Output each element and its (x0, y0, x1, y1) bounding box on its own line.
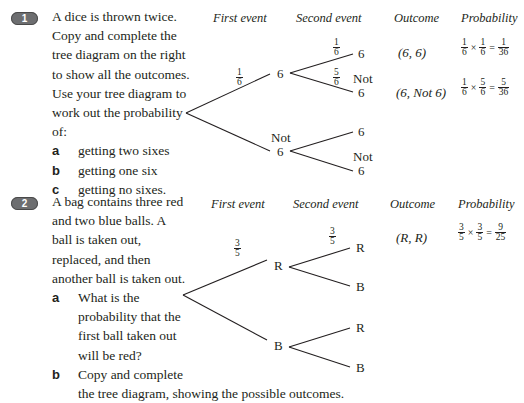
numerator: 5 (500, 78, 507, 87)
question-1: 1 A dice is thrown twice. Copy and compl… (0, 0, 524, 185)
node-first-not-label: Not (271, 131, 291, 145)
numerator: 1 (500, 38, 507, 47)
fraction: 56 (479, 78, 486, 97)
question-2: 2 A bag contains three red and two blue … (0, 185, 524, 384)
times-sign: × (471, 42, 477, 53)
branch-prob-first-6: 1 6 (236, 68, 243, 87)
denominator: 6 (479, 87, 486, 97)
fraction: 35 (458, 223, 465, 242)
leaf-r-r: R (356, 241, 365, 255)
leaf-6-6: 6 (358, 47, 365, 61)
node-first-6: 6 (277, 67, 284, 81)
node-first-not6: 6 (277, 145, 284, 159)
fraction: 925 (495, 223, 507, 242)
node-first-b: B (274, 339, 283, 353)
outcome-6-not6: (6, Not 6) (396, 85, 446, 101)
denominator: 6 (333, 77, 340, 87)
branch-prob-second-6: 1 6 (333, 38, 340, 57)
outcome-r-r: (R, R) (396, 230, 427, 246)
branch-prob-second-not6: 5 6 (333, 68, 340, 87)
times-sign: × (468, 227, 474, 238)
denominator: 5 (476, 232, 483, 242)
probability-6-6: 16 × 16 = 136 (461, 38, 509, 57)
equals-sign: = (489, 42, 495, 53)
numerator: 3 (234, 239, 241, 248)
fraction: 16 (461, 38, 468, 57)
denominator: 6 (461, 87, 468, 97)
numerator: 1 (236, 68, 243, 77)
denominator: 5 (234, 248, 241, 258)
times-sign: × (471, 82, 477, 93)
fraction: 35 (476, 223, 483, 242)
outcome-6-6: (6, 6) (398, 45, 426, 61)
leaf-b-r: R (356, 321, 365, 335)
branch-prob-second-r: 3 5 (329, 227, 336, 246)
numerator: 5 (333, 68, 340, 77)
fraction: 16 (479, 38, 486, 57)
denominator: 25 (495, 232, 507, 242)
leaf-6-not6: 6 (358, 86, 365, 100)
denominator: 36 (498, 87, 510, 97)
numerator: 5 (479, 78, 486, 87)
equals-sign: = (486, 227, 492, 238)
numerator: 1 (479, 38, 486, 47)
numerator: 3 (458, 223, 465, 232)
leaf-not6-6: 6 (358, 125, 365, 139)
node-first-r: R (274, 259, 283, 273)
numerator: 1 (461, 78, 468, 87)
probability-6-not6: 16 × 56 = 536 (461, 78, 509, 97)
fraction: 536 (498, 78, 510, 97)
equals-sign: = (489, 82, 495, 93)
denominator: 5 (329, 236, 336, 246)
leaf-b-b: B (356, 361, 365, 375)
fraction: 16 (461, 78, 468, 97)
denominator: 6 (479, 47, 486, 57)
branch-prob-first-r: 3 5 (234, 239, 241, 258)
part-text: the tree diagram, showing the possible o… (78, 384, 344, 403)
leaf-6-not-label: Not (353, 72, 373, 86)
leaf-r-b: B (356, 280, 365, 294)
numerator: 3 (476, 223, 483, 232)
fraction: 136 (498, 38, 510, 57)
denominator: 6 (236, 77, 243, 87)
tree-diagram-2 (0, 185, 524, 384)
numerator: 1 (461, 38, 468, 47)
numerator: 9 (497, 223, 504, 232)
denominator: 5 (458, 232, 465, 242)
leaf-not6-not6: 6 (358, 164, 365, 178)
numerator: 3 (329, 227, 336, 236)
leaf-not6-not-label: Not (353, 150, 373, 164)
numerator: 1 (333, 38, 340, 47)
denominator: 36 (498, 47, 510, 57)
probability-r-r: 35 × 35 = 925 (458, 223, 506, 242)
denominator: 6 (333, 47, 340, 57)
denominator: 6 (461, 47, 468, 57)
